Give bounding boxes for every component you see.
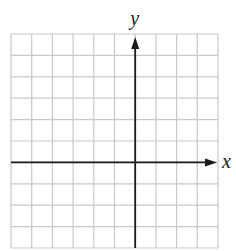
y-axis-label: y — [128, 7, 139, 30]
x-axis-arrow-icon — [205, 158, 217, 166]
y-axis-arrow-icon — [131, 37, 139, 49]
grid-lines — [11, 34, 218, 248]
coordinate-grid: x y — [0, 0, 236, 251]
x-axis-label: x — [221, 150, 231, 172]
